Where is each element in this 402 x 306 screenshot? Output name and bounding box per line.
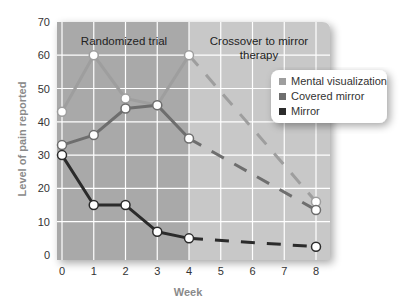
data-point: [185, 234, 194, 243]
y-tick-label: 70: [38, 16, 50, 28]
y-tick-label: 60: [38, 49, 50, 61]
y-axis-label: Level of pain reported: [16, 82, 28, 197]
y-tick-label: 30: [38, 149, 50, 161]
y-tick-label: 40: [38, 116, 50, 128]
x-axis-label: Week: [174, 286, 203, 298]
data-point: [153, 227, 162, 236]
data-point: [89, 201, 98, 210]
data-point: [89, 51, 98, 60]
x-tick-label: 0: [59, 265, 65, 277]
data-point: [121, 201, 130, 210]
x-tick-label: 4: [186, 265, 192, 277]
legend-swatch-mirror: [279, 108, 286, 115]
y-tick-label: 50: [38, 83, 50, 95]
data-point: [89, 131, 98, 140]
x-axis-ticks: 012345678: [59, 265, 319, 277]
data-point: [312, 242, 321, 251]
data-point: [58, 107, 67, 116]
pain-level-chart: Randomized trial Crossover to mirror the…: [0, 0, 402, 306]
legend-label-covered-mirror: Covered mirror: [291, 90, 365, 102]
x-tick-label: 5: [218, 265, 224, 277]
x-tick-label: 3: [154, 265, 160, 277]
y-axis-ticks: 010203040506070: [38, 16, 50, 261]
legend-label-mirror: Mirror: [291, 105, 320, 117]
x-tick-label: 8: [313, 265, 319, 277]
x-tick-label: 2: [122, 265, 128, 277]
y-tick-label: 0: [44, 249, 50, 261]
y-tick-label: 10: [38, 216, 50, 228]
x-tick-label: 1: [91, 265, 97, 277]
region-label-crossover: Crossover to mirror: [210, 35, 309, 47]
legend-swatch-mental-visualization: [279, 78, 286, 85]
y-tick-label: 20: [38, 182, 50, 194]
data-point: [58, 141, 67, 150]
legend: Mental visualizationCovered mirrorMirror: [271, 70, 387, 123]
legend-label-mental-visualization: Mental visualization: [291, 75, 387, 87]
legend-swatch-covered-mirror: [279, 93, 286, 100]
data-point: [58, 151, 67, 160]
x-tick-label: 7: [281, 265, 287, 277]
data-point: [121, 104, 130, 113]
data-point: [185, 134, 194, 143]
data-point: [121, 94, 130, 103]
region-label-randomized: Randomized trial: [81, 35, 167, 47]
data-point: [312, 206, 321, 215]
data-point: [185, 51, 194, 60]
region-label-crossover-2: therapy: [240, 49, 279, 61]
x-tick-label: 6: [249, 265, 255, 277]
data-point: [153, 101, 162, 110]
